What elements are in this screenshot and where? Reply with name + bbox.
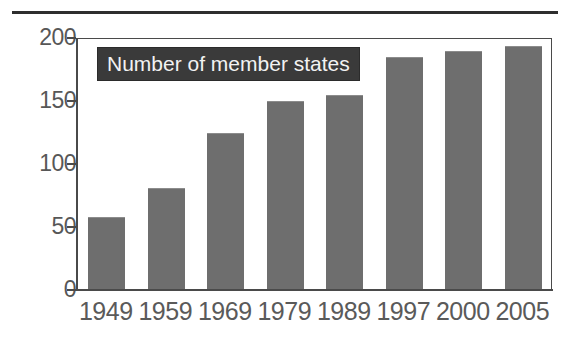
y-axis-tick-mark [67, 289, 76, 291]
x-axis-tick-label-1979: 1979 [255, 296, 315, 326]
x-axis-tick-label-1969: 1969 [195, 296, 255, 326]
x-axis-tick-label-1949: 1949 [76, 296, 136, 326]
x-axis-tick-label-1997: 1997 [374, 296, 434, 326]
bar-1949 [88, 217, 125, 289]
x-axis-tick-label-1959: 1959 [136, 296, 196, 326]
x-axis-line [76, 289, 553, 291]
x-axis-tick-label-2000: 2000 [433, 296, 493, 326]
bar-1959 [148, 188, 185, 289]
y-axis-tick-mark [67, 163, 76, 165]
bar-1969 [207, 133, 244, 289]
bar-1989 [326, 95, 363, 289]
x-axis-tick-label-1989: 1989 [314, 296, 374, 326]
y-axis-tick-mark [67, 37, 76, 39]
bar-chart-figure: 050100150200 Number of member states 194… [0, 0, 575, 341]
y-axis-tick-mark [67, 100, 76, 102]
x-axis-tick-label-2005: 2005 [493, 296, 553, 326]
y-axis-line [76, 38, 78, 291]
legend-box: Number of member states [97, 47, 360, 81]
bar-1997 [386, 57, 423, 289]
plot-area: Number of member states [76, 38, 552, 290]
x-axis-labels: 19491959196919791989199720002005 [76, 296, 553, 332]
bar-2005 [505, 46, 542, 289]
legend-label: Number of member states [107, 52, 350, 75]
y-axis-tick-mark [67, 226, 76, 228]
bar-2000 [445, 51, 482, 289]
top-divider-rule [12, 11, 558, 14]
bar-1979 [267, 101, 304, 289]
